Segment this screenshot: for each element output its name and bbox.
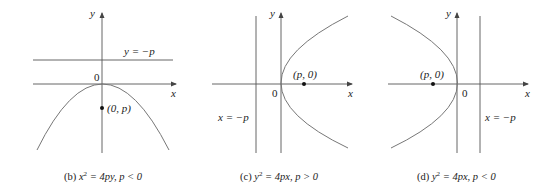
origin-label: 0 bbox=[462, 87, 468, 99]
directrix-label: y = −p bbox=[123, 45, 155, 57]
focus-label: (p, 0) bbox=[293, 68, 317, 81]
parabola-figure: y x 0 y = −p (0, p) (b) x2 = 4py, p < 0 … bbox=[0, 0, 536, 194]
panel-d: y x 0 x = −p (p, 0) (d) y2 = 4px, p < 0 bbox=[388, 7, 530, 183]
panel-c: y x 0 x = −p (p, 0) (c) y2 = 4px, p > 0 bbox=[212, 7, 353, 183]
directrix-label: x = −p bbox=[484, 111, 516, 123]
origin-label: 0 bbox=[94, 71, 100, 83]
panel-b: y x 0 y = −p (0, p) (b) x2 = 4py, p < 0 bbox=[33, 7, 176, 183]
focus-point bbox=[100, 106, 104, 110]
caption-d: (d) y2 = 4px, p < 0 bbox=[417, 170, 496, 183]
y-axis-label: y bbox=[445, 7, 451, 19]
focus-label: (0, p) bbox=[107, 102, 131, 115]
y-axis-label: y bbox=[269, 7, 275, 19]
caption-c: (c) y2 = 4px, p > 0 bbox=[240, 170, 319, 183]
focus-point bbox=[302, 82, 306, 86]
y-axis-label: y bbox=[89, 7, 95, 19]
focus-point bbox=[431, 82, 435, 86]
directrix-label: x = −p bbox=[217, 111, 249, 123]
x-axis-label: x bbox=[524, 87, 530, 99]
parabola-curve bbox=[281, 16, 348, 148]
x-axis-label: x bbox=[170, 87, 176, 99]
caption-b: (b) x2 = 4py, p < 0 bbox=[64, 170, 143, 183]
x-axis-label: x bbox=[347, 87, 353, 99]
origin-label: 0 bbox=[272, 87, 278, 99]
parabola-curve bbox=[37, 84, 169, 150]
focus-label: (p, 0) bbox=[420, 68, 444, 81]
parabola-curve bbox=[391, 16, 458, 148]
